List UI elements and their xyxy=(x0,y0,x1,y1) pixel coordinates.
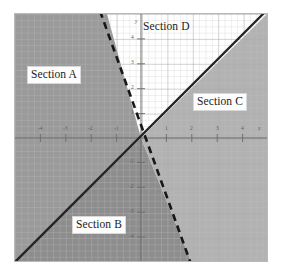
y-tick-label--4: -4 xyxy=(129,234,134,240)
x-tick-label--4: -4 xyxy=(38,126,43,132)
x-tick-label--3: -3 xyxy=(63,126,68,132)
coordinate-plane: -4 -3 -2 -1 1 2 3 4 x 4 3 2 1 -1 -2 -3 -… xyxy=(14,13,268,262)
plot-svg xyxy=(15,14,267,261)
y-tick-label-2: 2 xyxy=(131,85,134,91)
y-tick-label-4: 4 xyxy=(131,35,134,41)
y-tick-label-3: 3 xyxy=(131,60,134,66)
y-tick-label--2: -2 xyxy=(129,184,134,190)
y-tick-label-1: 1 xyxy=(131,110,134,116)
label-section-a: Section A xyxy=(27,66,81,84)
label-section-d: Section D xyxy=(143,20,190,34)
x-tick-label-4: 4 xyxy=(241,126,244,132)
y-tick-label--3: -3 xyxy=(129,209,134,215)
graph-figure: -4 -3 -2 -1 1 2 3 4 x 4 3 2 1 -1 -2 -3 -… xyxy=(0,0,282,275)
x-tick-label--1: -1 xyxy=(114,126,119,132)
x-tick-label-2: 2 xyxy=(190,126,193,132)
x-tick-label-1: 1 xyxy=(165,126,168,132)
y-tick-label--1: -1 xyxy=(129,159,134,165)
y-axis-label: y xyxy=(135,19,137,25)
x-axis-label: x xyxy=(258,126,260,132)
label-section-c: Section C xyxy=(193,93,247,111)
x-tick-label--2: -2 xyxy=(88,126,93,132)
x-tick-label-3: 3 xyxy=(216,126,219,132)
label-section-b: Section B xyxy=(72,216,126,234)
